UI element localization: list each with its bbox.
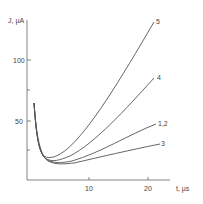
curve-label-5: 5 <box>156 18 160 25</box>
x-axis-label: t, µs <box>176 185 190 193</box>
curve-1-2 <box>34 103 156 163</box>
x-tick-label-20: 20 <box>144 185 152 192</box>
y-tick-label-100: 100 <box>13 57 25 64</box>
curve-5 <box>34 22 154 158</box>
curve-label-3: 3 <box>161 140 165 147</box>
y-tick-label-50: 50 <box>15 118 23 125</box>
curve-4 <box>34 78 154 161</box>
x-tick-label-10: 10 <box>85 185 93 192</box>
curve-label-4: 4 <box>157 74 161 81</box>
curve-3 <box>34 103 160 164</box>
y-axis-label: J, µA <box>8 17 24 25</box>
curve-label-1-2: 1,2 <box>158 120 168 127</box>
chart: 100 50 10 20 J, µA t, µs 5 4 1,2 3 <box>0 0 203 204</box>
